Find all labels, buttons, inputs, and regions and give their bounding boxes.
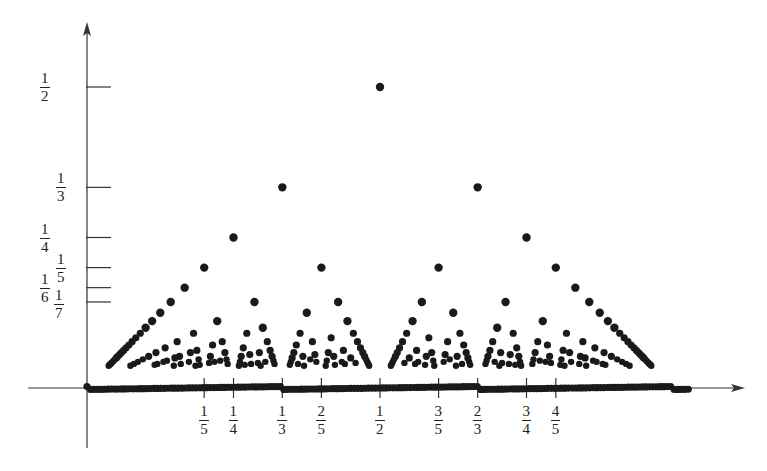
x-tick-label: 45 bbox=[551, 404, 561, 437]
y-tick-label: 17 bbox=[54, 288, 64, 321]
x-tick-label: 34 bbox=[522, 404, 532, 437]
y-tick-label: 16 bbox=[40, 272, 50, 305]
y-tick-label: 13 bbox=[56, 171, 66, 204]
zero-baseline-points bbox=[83, 383, 691, 393]
x-tick-label: 12 bbox=[375, 404, 385, 437]
thomae-function-plot bbox=[0, 0, 767, 471]
y-tick-label: 12 bbox=[40, 71, 50, 104]
x-tick-label: 35 bbox=[434, 404, 444, 437]
x-tick-label: 15 bbox=[199, 404, 209, 437]
x-tick-label: 25 bbox=[316, 404, 326, 437]
x-tick-label: 13 bbox=[277, 404, 287, 437]
x-tick-label: 14 bbox=[229, 404, 239, 437]
y-tick-label: 14 bbox=[40, 222, 50, 255]
y-tick-label: 15 bbox=[56, 252, 66, 285]
x-tick-label: 23 bbox=[473, 404, 483, 437]
data-points bbox=[106, 83, 655, 369]
